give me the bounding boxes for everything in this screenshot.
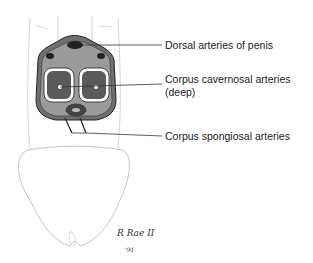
label-corpus-cavernosal-arteries: Corpus cavernosal arteries xyxy=(165,73,290,85)
signature-year: '91 xyxy=(125,246,134,253)
label-corpus-cavernosal-deep: (deep) xyxy=(165,86,195,98)
label-corpus-spongiosal-arteries: Corpus spongiosal arteries xyxy=(165,130,290,142)
label-dorsal-arteries: Dorsal arteries of penis xyxy=(165,39,273,51)
cross-section xyxy=(36,36,116,134)
artist-signature: R Rae II xyxy=(117,228,154,238)
scrotum-outline xyxy=(18,146,129,246)
